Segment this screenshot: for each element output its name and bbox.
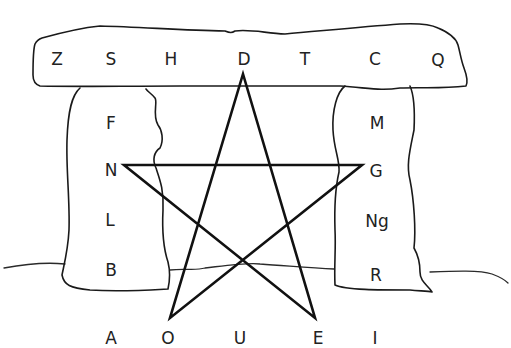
capstone-letter-c: C [369, 51, 381, 68]
ground-line [4, 263, 508, 283]
right-pillar-letter-m: M [370, 115, 385, 132]
bottom-letter-o: O [161, 330, 174, 347]
capstone-letter-s: S [106, 51, 117, 68]
right-pillar-letter-g: G [369, 163, 382, 180]
capstone-letter-z: Z [51, 51, 63, 68]
bottom-letter-e: E [313, 330, 324, 347]
bottom-letter-u: U [234, 330, 246, 347]
bottom-letter-i: I [372, 330, 377, 347]
capstone-letter-t: T [300, 51, 310, 68]
capstone-letter-q: Q [431, 52, 444, 69]
capstone-letter-d: D [237, 51, 250, 68]
capstone-letter-h: H [165, 51, 178, 68]
right-pillar-letter-r: R [370, 267, 382, 284]
pentagram-star [124, 74, 362, 318]
left-pillar-letter-b: B [105, 262, 117, 279]
left-pillar-letter-l: L [105, 212, 114, 229]
bottom-letter-a: A [105, 330, 117, 347]
left-pillar-letter-f: F [106, 115, 116, 132]
left-pillar-letter-n: N [105, 162, 118, 179]
right-pillar-letter-ng: Ng [365, 213, 389, 230]
